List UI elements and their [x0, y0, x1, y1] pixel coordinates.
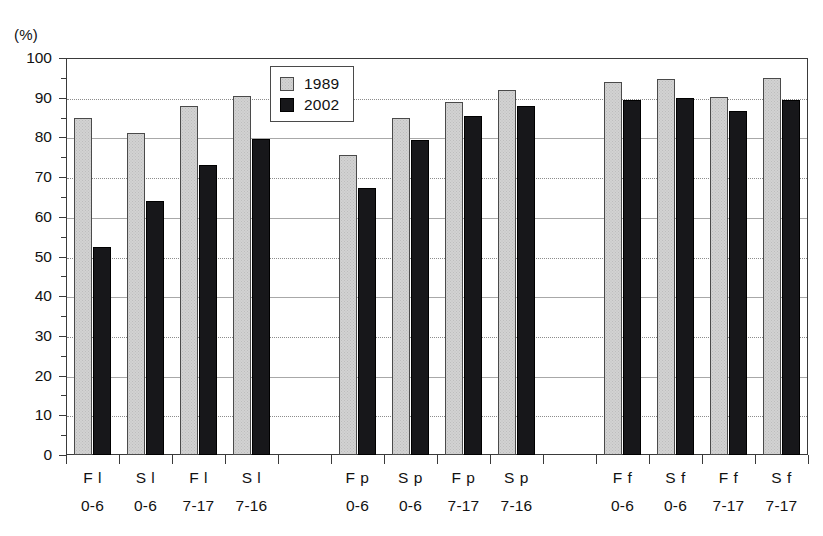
- y-tick-mark-0: [59, 455, 67, 456]
- y-axis-unit-label: (%): [14, 26, 38, 43]
- x-tick-mark-9: [543, 455, 544, 464]
- y-tick-mark-minor-85: [61, 118, 67, 119]
- x-tick-mark-8: [490, 455, 491, 464]
- x-label-category: S p: [477, 470, 557, 486]
- y-tick-label-20: 20: [8, 368, 52, 384]
- gridline-70: [67, 178, 807, 179]
- y-tick-mark-minor-55: [61, 237, 67, 238]
- gridline-80: [67, 138, 807, 139]
- gridline-90: [67, 99, 807, 100]
- x-label-S-l-7-16: S l7-16: [212, 470, 292, 515]
- x-tick-mark-12: [702, 455, 703, 464]
- y-tick-label-80: 80: [8, 130, 52, 146]
- legend-label-2002: 2002: [304, 97, 339, 113]
- y-tick-label-30: 30: [8, 328, 52, 344]
- x-tick-mark-14: [808, 455, 809, 464]
- y-tick-mark-40: [59, 296, 67, 297]
- y-tick-label-90: 90: [8, 90, 52, 106]
- legend-label-1989: 1989: [304, 76, 339, 92]
- y-tick-label-0: 0: [8, 447, 52, 463]
- x-tick-mark-7: [437, 455, 438, 464]
- y-tick-mark-20: [59, 376, 67, 377]
- y-tick-label-70: 70: [8, 169, 52, 185]
- y-tick-mark-minor-35: [61, 316, 67, 317]
- y-tick-label-40: 40: [8, 288, 52, 304]
- x-tick-mark-4: [278, 455, 279, 464]
- x-label-age-range: 7-16: [212, 498, 292, 514]
- y-tick-mark-minor-65: [61, 197, 67, 198]
- x-label-category: S l: [212, 470, 292, 486]
- x-label-age-range: 7-16: [477, 498, 557, 514]
- y-tick-mark-60: [59, 217, 67, 218]
- y-tick-mark-minor-25: [61, 356, 67, 357]
- gridline-50: [67, 258, 807, 259]
- x-tick-mark-5: [331, 455, 332, 464]
- y-tick-label-50: 50: [8, 249, 52, 265]
- y-tick-mark-90: [59, 98, 67, 99]
- x-tick-mark-11: [649, 455, 650, 464]
- x-tick-mark-1: [119, 455, 120, 464]
- x-tick-mark-0: [66, 455, 67, 464]
- y-tick-label-60: 60: [8, 209, 52, 225]
- bar-chart: (%) 1009080706050403020100 F l0-6S l0-6F…: [0, 0, 823, 536]
- plot-area: [66, 58, 808, 455]
- gridline-10: [67, 416, 807, 417]
- x-tick-mark-2: [172, 455, 173, 464]
- gridline-40: [67, 297, 807, 298]
- gridline-30: [67, 337, 807, 338]
- y-tick-mark-50: [59, 257, 67, 258]
- y-tick-mark-80: [59, 137, 67, 138]
- x-label-category: S f: [742, 470, 822, 486]
- gridline-60: [67, 218, 807, 219]
- x-tick-mark-10: [596, 455, 597, 464]
- legend-item-1989: 1989: [280, 73, 339, 94]
- y-tick-mark-minor-45: [61, 276, 67, 277]
- y-tick-mark-minor-95: [61, 78, 67, 79]
- y-tick-mark-minor-5: [61, 435, 67, 436]
- y-tick-mark-70: [59, 177, 67, 178]
- y-tick-mark-10: [59, 415, 67, 416]
- legend-item-2002: 2002: [280, 94, 339, 115]
- x-label-S-p-7-16: S p7-16: [477, 470, 557, 515]
- x-tick-mark-13: [755, 455, 756, 464]
- y-tick-mark-100: [59, 58, 67, 59]
- y-tick-mark-minor-15: [61, 395, 67, 396]
- x-label-S-f-7-17: S f7-17: [742, 470, 822, 515]
- y-tick-label-10: 10: [8, 408, 52, 424]
- y-tick-label-100: 100: [8, 50, 52, 66]
- legend-swatch-2002-icon: [280, 98, 294, 112]
- chart-legend: 1989 2002: [270, 66, 354, 122]
- y-tick-mark-30: [59, 336, 67, 337]
- x-tick-mark-6: [384, 455, 385, 464]
- y-tick-mark-minor-75: [61, 157, 67, 158]
- gridline-20: [67, 377, 807, 378]
- x-tick-mark-3: [225, 455, 226, 464]
- legend-swatch-1989-icon: [280, 77, 294, 91]
- x-label-age-range: 7-17: [742, 498, 822, 514]
- y-axis-tick-labels: 1009080706050403020100: [0, 58, 52, 455]
